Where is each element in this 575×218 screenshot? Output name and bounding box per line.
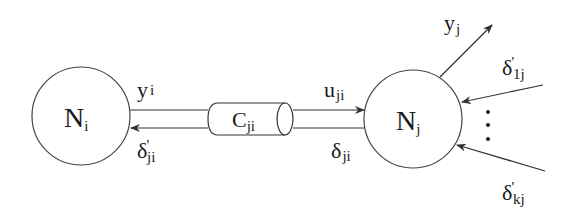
label-yi: yi	[137, 77, 154, 102]
label-delta-prime-kj: δ'kj	[502, 179, 525, 207]
node-ni: Ni	[32, 67, 130, 165]
channel-cji: Cji	[208, 103, 293, 135]
label-yj: yj	[444, 10, 460, 37]
label-delta-prime-ji: δ'ji	[137, 137, 155, 165]
label-uji: uji	[324, 77, 344, 103]
channel-label: Cji	[232, 107, 255, 134]
edge-delta-prime-kj-arrow	[457, 145, 545, 171]
edge-delta-prime-1j-arrow	[462, 85, 543, 102]
node-nj: Nj	[364, 70, 462, 168]
ellipsis-dots	[486, 110, 490, 141]
neural-channel-diagram: Ni Nj Cji yi δ'ji uji δji yj δ'1j δ'kj	[0, 0, 575, 218]
label-delta-ji: δji	[331, 138, 351, 164]
label-delta-prime-1j: δ'1j	[502, 54, 525, 82]
channel-end-cap	[277, 103, 293, 135]
